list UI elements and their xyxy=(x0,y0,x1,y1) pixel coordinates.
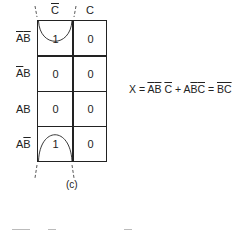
guide-line xyxy=(35,165,37,178)
eq-var: C xyxy=(164,83,172,95)
eq-sign: = xyxy=(208,83,214,95)
grouping-overlay xyxy=(0,0,242,233)
eq-sign: = xyxy=(139,83,145,95)
cutoff-fragment xyxy=(48,229,56,230)
boolean-equation: X = AB C + ABC = BC xyxy=(129,83,232,95)
guide-line xyxy=(74,6,76,17)
eq-term1: AB C xyxy=(147,83,172,95)
eq-lhs: X xyxy=(129,83,136,95)
cutoff-fragment xyxy=(124,229,132,230)
group-loop-bottom xyxy=(39,135,73,161)
guide-line xyxy=(72,165,74,178)
eq-var: B xyxy=(217,83,224,95)
eq-var: B xyxy=(154,83,161,95)
group-loop-top xyxy=(39,21,73,41)
guide-line xyxy=(35,6,37,17)
eq-var: C xyxy=(197,83,205,95)
eq-var: C xyxy=(224,83,232,95)
eq-plus: + xyxy=(175,83,181,95)
eq-result: BC xyxy=(217,83,232,95)
cutoff-fragment xyxy=(12,229,30,230)
eq-term2: ABC xyxy=(183,83,205,95)
figure-caption: (c) xyxy=(66,179,78,191)
